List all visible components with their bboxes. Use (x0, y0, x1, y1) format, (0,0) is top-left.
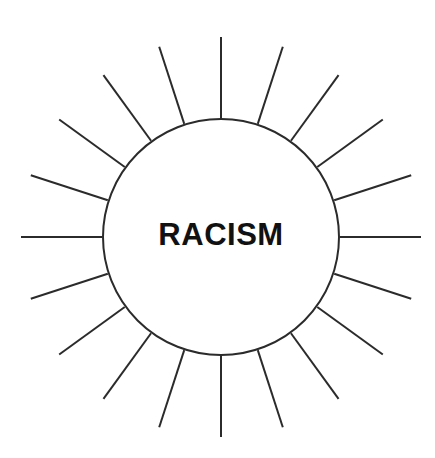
center-label: RACISM (158, 217, 283, 252)
radial-burst-diagram: RACISM (0, 0, 435, 458)
radial-diagram-canvas: RACISM (0, 0, 435, 458)
